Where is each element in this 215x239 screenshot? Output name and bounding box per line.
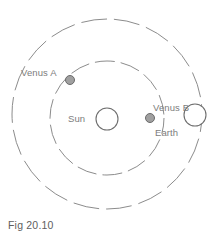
venus-a-body: [66, 76, 75, 85]
figure-container: Sun Venus A Venus B Earth Fig 20.10: [0, 0, 215, 239]
figure-caption: Fig 20.10: [8, 219, 54, 231]
earth-label: Earth: [155, 127, 178, 138]
sun-body: [96, 108, 118, 130]
sun-label: Sun: [68, 113, 85, 124]
venus-b-body: [146, 114, 155, 123]
venus-b-label: Venus B: [153, 102, 189, 113]
venus-a-label: Venus A: [21, 67, 57, 78]
orbital-diagram: Sun Venus A Venus B Earth: [0, 0, 215, 239]
